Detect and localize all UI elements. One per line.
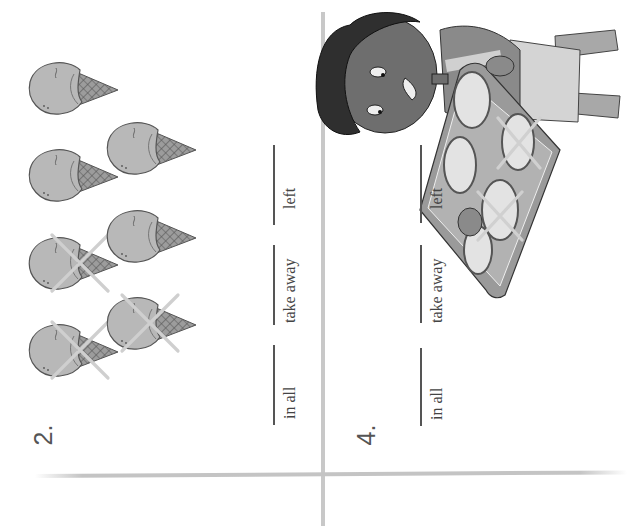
ice-cream-cone	[29, 63, 118, 114]
ice-cream-cone-crossed	[29, 235, 118, 291]
ice-cream-cone-crossed	[29, 322, 118, 378]
ice-cream-cone	[29, 150, 118, 201]
child-with-pizza-tray	[316, 13, 620, 298]
ice-cream-cone	[107, 123, 196, 174]
ice-cream-cone	[107, 211, 196, 262]
ice-cream-illustration	[0, 0, 634, 526]
problem-number-4: 4.	[351, 420, 381, 450]
ice-cream-cone-crossed	[107, 295, 196, 351]
